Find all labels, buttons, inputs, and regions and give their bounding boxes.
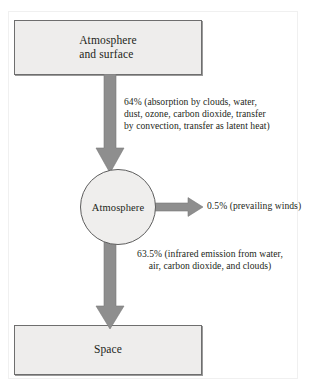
flow-label-64-percent: 64% (absorption by clouds, water, dust, … [124,96,314,133]
node-space-label: Space [94,343,122,357]
arrow-right-atmosphere-to-winds [152,197,204,217]
node-atmosphere: Atmosphere [80,169,156,245]
node-atmosphere-and-surface-label: Atmosphere and surface [79,34,137,61]
node-atmosphere-label: Atmosphere [92,202,144,213]
arrow-down-surface-to-atmosphere [95,74,125,174]
diagram-canvas: Atmosphere and surface 64% (absorption b… [0,0,318,390]
flow-label-0-5-percent: 0.5% (prevailing winds) [207,199,317,213]
flow-label-63-5-percent: 63.5% (infrared emission from water, air… [106,248,314,272]
node-space: Space [14,325,202,375]
node-atmosphere-and-surface: Atmosphere and surface [14,20,202,75]
